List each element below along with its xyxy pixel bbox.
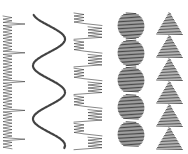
satin-triangles-pattern (157, 13, 183, 150)
stitch-pattern-sampler (0, 0, 188, 154)
alternating-zigzag-blocks-pattern (74, 13, 102, 150)
zigzag-long-stitch-pattern (3, 16, 25, 149)
satin-bead-ovals-pattern (118, 13, 144, 146)
sine-wave-cord-pattern (33, 15, 65, 148)
